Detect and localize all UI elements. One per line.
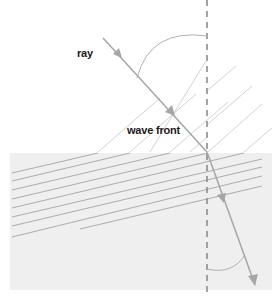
angle-of-incidence-arc <box>137 35 207 78</box>
wave-front-label: wave front <box>127 124 180 136</box>
incident-wave-fronts <box>98 61 272 152</box>
refraction-diagram <box>0 0 272 297</box>
ray-label: ray <box>77 47 93 59</box>
